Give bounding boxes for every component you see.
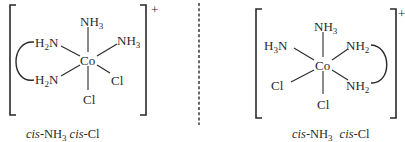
ligand-upper-left: H2N [35,35,59,52]
isomer-diagram: + Co NH3 H2N NH3 H2N Cl Cl cis-NH3cis-Cl [0,0,405,142]
left-caption: cis-NH3cis-Cl [26,127,100,142]
right-bracket-close [390,9,396,118]
bond-upper-left [294,48,314,60]
right-caption: cis-NH3cis-Cl [292,127,370,142]
center-atom-co: Co [315,58,330,73]
bond-upper-left [61,46,80,56]
left-bracket-close [140,5,146,115]
ligand-upper-left: H3N [264,38,288,55]
bond-lower-left [291,70,314,82]
right-bracket-open [256,9,262,118]
ligand-lower-left: H2N [35,72,59,89]
bond-lower-left [61,65,80,76]
ligand-upper-right: NH3 [117,33,141,50]
ligand-upper-right: NH2 [346,38,369,55]
left-isomer: + Co NH3 H2N NH3 H2N Cl Cl cis-NH3cis-Cl [10,2,158,142]
ligand-lower-right: NH2 [346,78,369,95]
chelate-arc [371,45,387,83]
charge-label: + [151,2,158,17]
chelate-arc [16,42,34,80]
right-isomer: + Co NH3 H3N NH2 Cl NH2 Cl cis-NH3cis-Cl [256,6,405,142]
ligand-top: NH3 [314,19,338,36]
charge-label: + [398,6,405,21]
bond-upper-right [97,44,117,56]
bond-lower-right [97,65,110,73]
left-bracket-open [10,5,16,115]
ligand-top: NH3 [80,14,104,31]
center-atom-co: Co [80,53,95,68]
ligand-bottom: Cl [83,92,96,107]
ligand-lower-right: Cl [111,73,124,88]
ligand-lower-left: Cl [271,78,284,93]
ligand-bottom: Cl [317,97,330,112]
